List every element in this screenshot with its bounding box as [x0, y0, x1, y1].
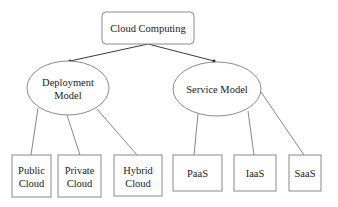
cloud-computing-diagram: Cloud Computing Deployment Model Service…: [0, 0, 338, 207]
edge-deployment-public: [31, 108, 38, 155]
edge-service-paas: [194, 114, 198, 155]
deployment-label-line1: Deployment: [42, 77, 94, 88]
edge-root-deployment: [70, 44, 148, 61]
edge-root-service: [148, 44, 214, 61]
saas-label: SaaS: [295, 168, 316, 179]
node-saas: SaaS: [289, 155, 321, 191]
node-service-model: Service Model: [173, 62, 261, 116]
node-private-cloud: Private Cloud: [58, 155, 101, 197]
hybrid-cloud-line1: Hybrid: [123, 165, 153, 176]
public-cloud-line1: Public: [18, 165, 45, 176]
iaas-label: IaaS: [246, 168, 265, 179]
root-label: Cloud Computing: [110, 23, 186, 34]
public-cloud-line2: Cloud: [19, 178, 45, 189]
node-iaas: IaaS: [234, 155, 276, 191]
node-deployment-model: Deployment Model: [27, 61, 109, 115]
node-public-cloud: Public Cloud: [12, 155, 51, 197]
edge-service-saas: [261, 92, 304, 155]
edge-deployment-hybrid: [97, 109, 137, 155]
root-edges: [68, 44, 215, 63]
node-cloud-computing: Cloud Computing: [102, 12, 194, 44]
private-cloud-line1: Private: [65, 165, 95, 176]
node-hybrid-cloud: Hybrid Cloud: [114, 155, 162, 196]
edge-service-iaas: [248, 111, 254, 155]
deployment-edges: [31, 108, 137, 155]
private-cloud-line2: Cloud: [67, 178, 93, 189]
paas-label: PaaS: [187, 168, 208, 179]
service-label: Service Model: [186, 84, 248, 95]
edge-deployment-private: [67, 115, 80, 155]
deployment-label-line2: Model: [54, 90, 81, 101]
node-paas: PaaS: [173, 155, 222, 191]
hybrid-cloud-line2: Cloud: [125, 178, 151, 189]
